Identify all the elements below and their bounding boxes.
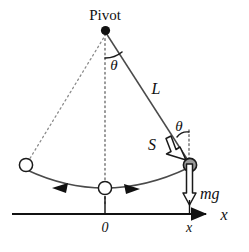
arc-length-label: S: [148, 136, 156, 153]
diagram-canvas: Pivot θ L S θ mg x 0 x: [0, 0, 249, 252]
weight-label: mg: [200, 185, 220, 203]
string-length-label: L: [151, 80, 161, 97]
bob-left-extreme: [19, 158, 32, 171]
pivot-label: Pivot: [89, 7, 122, 23]
pivot-point: [101, 26, 110, 35]
position-tick-label: x: [185, 220, 193, 235]
pendulum-diagram: Pivot θ L S θ mg x 0 x: [0, 0, 249, 252]
x-axis-label: x: [219, 206, 227, 223]
theta-pivot-label: θ: [110, 57, 118, 73]
string-left-dashed: [29, 34, 106, 160]
motion-arrow-left-icon: [52, 183, 68, 193]
origin-tick-label: 0: [102, 220, 109, 235]
tangential-displacement-arrow: [166, 136, 186, 160]
bob-rest-position: [98, 181, 111, 194]
theta-bob-label: θ: [175, 118, 183, 134]
